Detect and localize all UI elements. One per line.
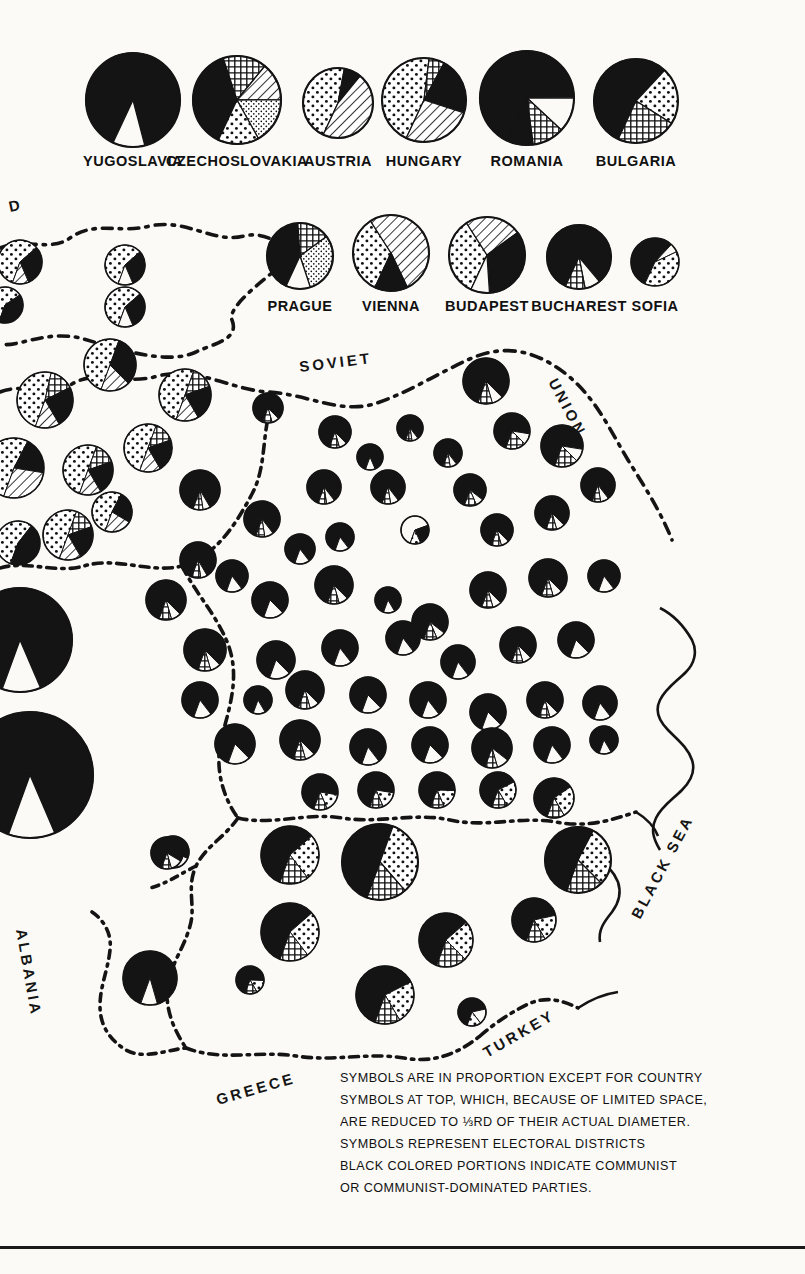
district-pie-8	[0, 438, 44, 498]
district-pie-63	[534, 727, 570, 763]
district-pie-29	[326, 523, 354, 551]
black-sea-coastline	[578, 608, 695, 1008]
district-pie-48	[500, 627, 536, 663]
district-pie-59	[280, 720, 320, 760]
district-pie-9	[63, 445, 113, 495]
map-figure: YUGOSLAVIACZECHOSLOVAKIAAUSTRIAHUNGARYRO…	[0, 0, 805, 1274]
city-pie-bucharest	[547, 225, 611, 289]
district-pie-40	[470, 572, 506, 608]
district-pie-83	[123, 951, 177, 1005]
border-romania-bulgaria-danube	[238, 812, 636, 824]
district-pie-58	[215, 724, 255, 764]
country-pie-bulgaria	[594, 59, 678, 143]
country-label-romania: ROMANIA	[491, 153, 564, 169]
geo-label-albania: ALBANIA	[13, 928, 45, 1018]
district-pie-50	[182, 682, 218, 718]
district-pie-14	[180, 470, 220, 510]
district-pie-60	[350, 729, 386, 765]
district-pie-36	[252, 582, 288, 618]
district-pie-74	[545, 827, 611, 893]
district-pie-25	[244, 501, 280, 537]
district-pie-45	[322, 630, 358, 666]
district-pie-15	[253, 393, 283, 423]
city-label-prague: PRAGUE	[267, 298, 332, 314]
border-czechoslovakia-east	[0, 246, 302, 357]
caption-line-3b: RD OF THEIR ACTUAL DIAMETER.	[473, 1115, 690, 1129]
district-pie-82	[151, 837, 183, 869]
district-pie-70	[0, 588, 72, 692]
district-pie-7	[159, 369, 211, 421]
caption-line-4: SYMBOLS REPRESENT ELECTORAL DISTRICTS	[340, 1137, 645, 1151]
geo-label-black-sea: BLACK SEA	[628, 812, 697, 921]
district-pie-62	[472, 728, 512, 768]
district-pie-66	[358, 772, 394, 808]
district-pie-4	[0, 287, 23, 323]
district-pie-13	[0, 521, 40, 565]
city-pie-budapest	[449, 217, 525, 293]
district-pie-18	[357, 444, 383, 470]
district-pie-76	[261, 903, 319, 961]
district-pie-80	[356, 966, 414, 1024]
district-pie-12	[43, 510, 93, 560]
caption-line-3a: ARE REDUCED TO	[340, 1115, 462, 1129]
district-pie-56	[527, 682, 563, 718]
district-pie-42	[588, 560, 620, 592]
district-pie-37	[315, 566, 353, 604]
district-pie-81	[458, 998, 486, 1026]
district-pie-22	[454, 474, 486, 506]
city-label-vienna: VIENNA	[362, 298, 420, 314]
district-pie-16	[319, 416, 351, 448]
geo-label-soviet: SOVIET	[298, 349, 373, 375]
country-label-hungary: HUNGARY	[386, 153, 462, 169]
district-pie-1	[0, 240, 42, 284]
district-pie-11	[92, 492, 132, 532]
district-pie-47	[441, 645, 475, 679]
border-yugoslavia-inner	[150, 866, 196, 888]
district-pie-32	[535, 496, 569, 530]
district-pie-34	[146, 580, 186, 620]
district-pie-38	[375, 587, 401, 613]
country-pie-czechoslovakia	[193, 56, 281, 144]
district-pie-72	[261, 826, 319, 884]
country-label-bulgaria: BULGARIA	[596, 153, 677, 169]
district-pie-55	[470, 694, 506, 730]
caption-line-3: ARE REDUCED TO ⅓RD OF THEIR ACTUAL DIAME…	[340, 1115, 690, 1129]
district-pie-35	[216, 560, 248, 592]
district-pie-49	[558, 622, 594, 658]
district-pie-17	[397, 415, 423, 441]
caption-line-6: OR COMMUNIST-DOMINATED PARTIES.	[340, 1181, 592, 1195]
district-pie-67	[419, 772, 455, 808]
district-pie-43	[184, 629, 226, 671]
bottom-rule	[0, 1246, 805, 1249]
caption-fraction: ⅓	[462, 1115, 473, 1129]
district-pie-51	[244, 686, 272, 714]
city-label-budapest: BUDAPEST	[445, 298, 529, 314]
city-pie-group	[267, 215, 679, 293]
country-pie-hungary	[382, 58, 466, 142]
caption-block: SYMBOLS ARE IN PROPORTION EXCEPT FOR COU…	[340, 1071, 707, 1195]
district-pie-21	[494, 413, 530, 449]
country-label-group: YUGOSLAVIACZECHOSLOVAKIAAUSTRIAHUNGARYRO…	[83, 153, 676, 169]
district-pie-65	[302, 774, 338, 810]
district-pie-24	[180, 542, 216, 578]
district-pie-68	[480, 772, 516, 808]
border-north-czechoslovakia	[0, 224, 300, 248]
district-pie-46	[386, 621, 420, 655]
country-label-austria: AUSTRIA	[304, 153, 372, 169]
district-pie-2	[105, 245, 145, 285]
city-label-group: PRAGUEVIENNABUDAPESTBUCHARESTSOFIA	[267, 298, 678, 314]
district-pie-44	[257, 641, 295, 679]
district-pie-64	[590, 726, 618, 754]
district-pie-54	[410, 682, 446, 718]
district-pie-57	[583, 686, 617, 720]
district-pie-53	[350, 677, 386, 713]
country-label-czechoslovakia: CZECHOSLOVAKIA	[166, 153, 308, 169]
caption-line-5: BLACK COLORED PORTIONS INDICATE COMMUNIS…	[340, 1159, 677, 1173]
country-pie-yugoslavia	[86, 53, 180, 147]
district-pie-52	[286, 671, 324, 709]
district-pie-33	[581, 468, 615, 502]
city-pie-prague	[267, 223, 333, 289]
district-pie-78	[512, 898, 556, 942]
district-pie-6	[17, 372, 73, 428]
caption-line-1: SYMBOLS ARE IN PROPORTION EXCEPT FOR COU…	[340, 1071, 703, 1085]
